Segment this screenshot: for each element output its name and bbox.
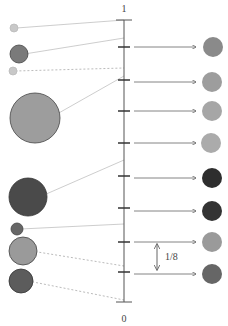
connector-line [39,160,124,197]
quantized-circle [202,72,222,92]
source-circle [11,223,23,235]
source-circle [10,45,28,63]
quantized-circle [201,133,221,153]
quantized-circle [202,264,222,284]
axis-bottom-label: 0 [122,313,127,324]
connector-line [50,76,124,118]
quantized-circle [203,37,223,57]
source-circle [9,237,37,265]
quantized-circles [201,37,223,284]
connector-line [24,38,124,54]
quantized-circle [202,201,222,221]
interval-label: 1/8 [165,251,178,262]
source-circle [10,24,18,32]
quantized-circle [202,101,222,121]
source-circle [9,178,47,216]
mapping-arrows [134,47,196,274]
source-circle [9,269,33,293]
value-axis: 1 0 [116,3,132,324]
source-circles [9,24,60,293]
source-circle [10,93,60,143]
axis-top-label: 1 [122,3,127,14]
quantized-circle [202,168,222,188]
connector-line [21,224,124,229]
interval-annotation: 1/8 [157,244,178,270]
connector-line [15,68,124,71]
connector-line [31,251,124,266]
connector-line [28,281,124,300]
source-circle [9,67,17,75]
quantized-circle [202,232,222,252]
connector-line [16,20,124,28]
quantization-diagram: 1 0 1/8 [0,0,228,326]
